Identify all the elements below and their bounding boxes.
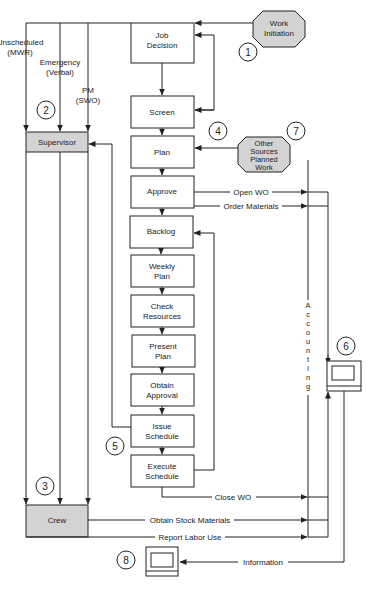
step-number-5: 5	[106, 437, 124, 455]
svg-text:Work: Work	[270, 19, 290, 28]
flow-close-wo: Close WO	[162, 487, 307, 502]
process-box-backlog: Backlog	[130, 216, 193, 248]
svg-text:Plan: Plan	[154, 148, 170, 157]
accounting-label: A c c o u n t i n g	[305, 301, 310, 391]
svg-text:Job: Job	[156, 31, 169, 40]
entry-label-pm: PM (SWO)	[76, 86, 101, 105]
other-sources-planned-work: Other Sources Planned Work	[238, 137, 290, 172]
svg-text:Present: Present	[149, 342, 177, 351]
svg-text:PM: PM	[82, 86, 94, 95]
flow-information: Information	[238, 555, 288, 567]
step-number-6: 6	[337, 337, 355, 355]
svg-text:Check: Check	[151, 302, 175, 311]
step-number-2: 2	[37, 101, 55, 119]
svg-text:Close WO: Close WO	[215, 493, 251, 502]
svg-text:u: u	[306, 337, 310, 346]
step-number-1: 1	[239, 43, 257, 61]
svg-text:(Verbal): (Verbal)	[46, 68, 74, 77]
svg-text:t: t	[307, 355, 310, 364]
svg-text:6: 6	[343, 341, 349, 352]
crew-box: Crew	[26, 505, 88, 537]
svg-text:7: 7	[293, 126, 299, 137]
process-box-screen: Screen	[131, 96, 194, 128]
work-order-flow-diagram: Unscheduled (MWR) Emergency (Verbal) PM …	[0, 0, 371, 590]
work-initiation-arrows	[195, 23, 253, 110]
process-box-job-decision: Job Decision	[131, 23, 194, 63]
svg-text:Issue: Issue	[152, 422, 172, 431]
svg-text:Resources: Resources	[143, 312, 181, 321]
svg-text:Decision: Decision	[147, 41, 178, 50]
supervisor-to-crew-lines	[26, 152, 88, 504]
svg-text:Plan: Plan	[154, 272, 170, 281]
svg-text:Crew: Crew	[48, 516, 67, 525]
svg-text:Weekly: Weekly	[149, 262, 175, 271]
process-box-weekly-plan: Weekly Plan	[131, 255, 194, 287]
entry-label-emergency: Emergency (Verbal)	[40, 58, 80, 77]
flow-order-materials: Order Materials	[194, 202, 307, 211]
process-box-present-plan: Present Plan	[132, 335, 195, 367]
svg-text:n: n	[306, 346, 310, 355]
svg-text:c: c	[306, 310, 310, 319]
svg-text:n: n	[306, 373, 310, 382]
computer-terminal-icon	[146, 547, 178, 576]
flow-obtain-stock-materials: Obtain Stock Materials	[88, 516, 307, 525]
svg-text:Screen: Screen	[149, 108, 174, 117]
svg-text:i: i	[307, 364, 309, 373]
process-box-check-resources: Check Resources	[131, 295, 194, 327]
svg-text:2: 2	[43, 105, 49, 116]
svg-text:8: 8	[123, 555, 129, 566]
svg-text:1: 1	[245, 47, 251, 58]
svg-text:Schedule: Schedule	[145, 472, 179, 481]
svg-text:Work: Work	[255, 163, 273, 172]
issue-schedule-to-supervisor-line	[89, 144, 131, 427]
work-initiation-source: Work Initiation	[253, 11, 305, 47]
process-box-obtain-approval: Obtain Approval	[131, 374, 194, 406]
execute-to-backlog-line	[194, 233, 214, 470]
svg-text:Open WO: Open WO	[233, 188, 269, 197]
svg-text:A: A	[305, 301, 310, 310]
svg-text:Obtain Stock Materials: Obtain Stock Materials	[150, 516, 230, 525]
svg-text:(SWO): (SWO)	[76, 96, 101, 105]
supervisor-box: Supervisor	[26, 132, 88, 152]
svg-text:4: 4	[215, 126, 221, 137]
process-box-plan: Plan	[131, 136, 194, 168]
svg-text:Supervisor: Supervisor	[38, 138, 77, 147]
step-number-4: 4	[209, 122, 227, 140]
svg-text:Approval: Approval	[146, 391, 178, 400]
process-box-approve: Approve	[131, 176, 194, 208]
svg-text:Approve: Approve	[147, 187, 177, 196]
svg-text:Report Labor Use: Report Labor Use	[158, 533, 222, 542]
computer-terminal-icon	[327, 361, 361, 391]
svg-text:c: c	[306, 319, 310, 328]
svg-text:Order Materials: Order Materials	[223, 202, 278, 211]
svg-text:o: o	[306, 328, 310, 337]
svg-text:Execute: Execute	[148, 462, 177, 471]
svg-text:Schedule: Schedule	[145, 432, 179, 441]
step-number-7: 7	[287, 122, 305, 140]
svg-text:5: 5	[112, 441, 118, 452]
svg-text:3: 3	[42, 481, 48, 492]
svg-text:Obtain: Obtain	[150, 381, 174, 390]
step-number-8: 8	[117, 551, 135, 569]
flow-open-wo: Open WO	[194, 188, 307, 197]
process-box-execute-schedule: Execute Schedule	[131, 455, 194, 487]
svg-text:g: g	[306, 382, 310, 391]
accounting-collector-lines	[180, 192, 344, 562]
step-number-3: 3	[36, 477, 54, 495]
svg-text:Initiation: Initiation	[264, 29, 294, 38]
svg-text:Emergency: Emergency	[40, 58, 80, 67]
svg-text:Backlog: Backlog	[147, 227, 175, 236]
svg-text:Information: Information	[243, 558, 283, 567]
process-box-issue-schedule: Issue Schedule	[131, 415, 194, 447]
svg-text:Plan: Plan	[155, 352, 171, 361]
